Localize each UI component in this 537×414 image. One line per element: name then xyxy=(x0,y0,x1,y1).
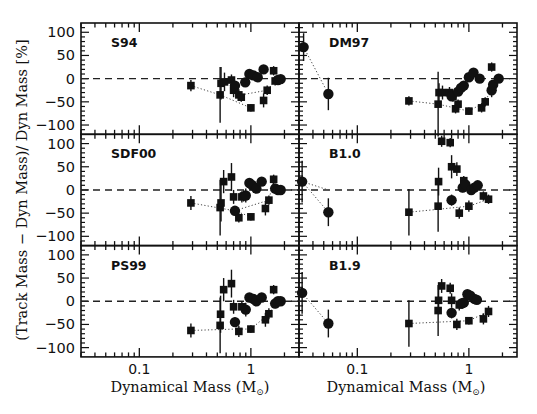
circle-marker xyxy=(297,288,307,298)
y-tick-label: 100 xyxy=(47,24,75,40)
x-tick-label: 1 xyxy=(464,361,473,377)
y-tick-label: 50 xyxy=(57,159,75,175)
square-marker xyxy=(446,139,454,147)
y-tick-label: −100 xyxy=(35,117,75,133)
x-tick-label: 0.1 xyxy=(128,361,150,377)
y-tick-label: 100 xyxy=(47,136,75,152)
square-marker xyxy=(485,308,493,316)
circle-marker xyxy=(446,308,456,318)
y-tick-label: 50 xyxy=(57,270,75,286)
sun-symbol: ⊙ xyxy=(472,387,480,397)
square-marker xyxy=(453,165,461,173)
y-tick-label: −50 xyxy=(44,316,75,332)
panel-b1-9: 0.11B1.9 xyxy=(297,246,517,377)
panel-ps99: 100500−50−1000.11PS99 xyxy=(35,246,299,377)
square-marker xyxy=(220,286,228,294)
square-marker xyxy=(481,98,489,106)
square-marker xyxy=(434,202,442,210)
square-marker xyxy=(465,202,473,210)
square-marker xyxy=(439,89,447,97)
y-tick-label: −50 xyxy=(44,205,75,221)
square-marker xyxy=(247,104,255,112)
square-marker xyxy=(448,297,456,305)
square-marker xyxy=(465,317,473,325)
square-marker xyxy=(438,282,446,290)
square-marker xyxy=(465,107,473,115)
y-tick-label: 0 xyxy=(66,71,75,87)
panel-s94: 100500−50−100S94 xyxy=(35,23,299,134)
circle-marker xyxy=(256,292,266,302)
square-marker xyxy=(265,196,273,204)
x-tick-label: 0.1 xyxy=(346,361,368,377)
x-axis-label-left: Dynamical Mass (M⊙) xyxy=(111,379,270,397)
square-marker xyxy=(453,321,461,329)
square-marker xyxy=(220,178,228,186)
y-tick-label: 0 xyxy=(66,293,75,309)
square-marker xyxy=(228,173,236,181)
panel-label: SDF00 xyxy=(111,146,157,161)
square-marker xyxy=(228,280,236,288)
square-marker xyxy=(216,91,224,99)
panel-label: PS99 xyxy=(111,258,147,273)
panel-grid: 100500−50−100S94DM97100500−50−100SDF00B1… xyxy=(35,23,517,377)
square-marker xyxy=(187,327,195,335)
circle-marker xyxy=(297,176,307,186)
circle-marker xyxy=(241,190,251,200)
panel-label: B1.9 xyxy=(329,258,361,273)
circle-marker xyxy=(275,185,285,195)
panel-dm97: DM97 xyxy=(298,23,517,137)
square-marker xyxy=(270,175,278,183)
circle-marker xyxy=(474,73,484,83)
square-marker xyxy=(488,63,496,71)
x-tick-label: 1 xyxy=(246,361,255,377)
panel-label: DM97 xyxy=(329,35,369,50)
circle-marker xyxy=(323,207,333,217)
square-marker xyxy=(187,199,195,207)
circle-marker xyxy=(256,176,266,186)
multi-panel-scatter-figure: 100500−50−100S94DM97100500−50−100SDF00B1… xyxy=(0,0,537,414)
y-tick-label: −50 xyxy=(44,94,75,110)
panel-sdf00: 100500−50−100SDF00 xyxy=(35,134,299,245)
panel-b1-0: B1.0 xyxy=(297,134,517,245)
track-dotted-line xyxy=(304,47,329,94)
square-marker xyxy=(265,310,273,318)
square-marker xyxy=(435,178,443,186)
square-marker xyxy=(217,310,225,318)
circle-marker xyxy=(275,74,285,84)
circle-marker xyxy=(298,42,308,52)
square-marker xyxy=(405,320,413,328)
square-marker xyxy=(230,193,238,201)
circle-marker xyxy=(323,318,333,328)
y-tick-label: 100 xyxy=(47,247,75,263)
square-marker xyxy=(230,303,238,311)
panel-label: S94 xyxy=(111,35,138,50)
square-marker xyxy=(260,97,268,105)
square-marker xyxy=(221,78,229,86)
square-marker xyxy=(235,328,243,336)
y-tick-label: −100 xyxy=(35,228,75,244)
square-marker xyxy=(485,195,493,203)
circle-marker xyxy=(230,206,240,216)
circle-marker xyxy=(258,64,268,74)
square-marker xyxy=(434,100,442,108)
square-marker xyxy=(270,286,278,294)
square-marker xyxy=(263,86,271,94)
circle-marker xyxy=(241,304,251,314)
circle-marker xyxy=(323,89,333,99)
square-marker xyxy=(438,137,446,145)
y-tick-label: 0 xyxy=(66,182,75,198)
panel-label: B1.0 xyxy=(329,146,361,161)
x-axis-label-text: Dynamical Mass (M xyxy=(111,379,257,395)
circle-marker xyxy=(446,195,456,205)
square-marker xyxy=(247,325,255,333)
square-marker xyxy=(480,315,488,323)
square-marker xyxy=(270,67,278,75)
y-tick-label: 50 xyxy=(57,47,75,63)
circle-marker xyxy=(472,295,482,305)
circle-marker xyxy=(230,80,240,90)
square-marker xyxy=(435,297,443,305)
sun-symbol: ⊙ xyxy=(256,387,264,397)
square-marker xyxy=(454,100,462,108)
circle-marker xyxy=(230,317,240,327)
square-marker xyxy=(455,209,463,217)
